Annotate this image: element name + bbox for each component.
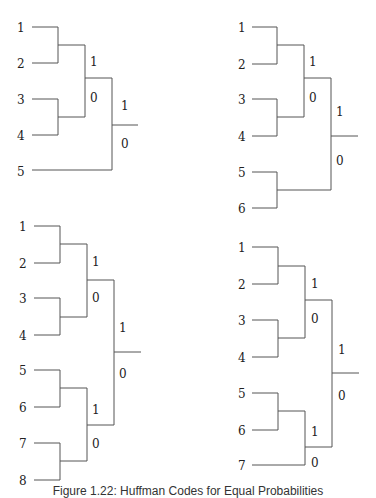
bit-label-lower: 0 xyxy=(92,437,100,451)
bit-label-lower: 0 xyxy=(92,291,100,305)
leaf-label: 2 xyxy=(19,257,27,271)
leaf-label: 1 xyxy=(238,21,246,35)
bit-label-upper: 1 xyxy=(338,343,346,357)
bit-label-lower: 0 xyxy=(311,456,319,470)
huffman-tree-5: 1 2 3 4 5 1 0 1 0 xyxy=(17,21,138,179)
leaf-label: 2 xyxy=(17,57,25,71)
leaf-label: 5 xyxy=(238,166,246,180)
bit-label-upper: 1 xyxy=(92,403,100,417)
bit-label-upper: 1 xyxy=(92,255,100,269)
leaf-label: 5 xyxy=(19,364,27,378)
bit-label-upper: 1 xyxy=(119,321,127,335)
leaf-label: 7 xyxy=(19,437,27,451)
leaf-label: 6 xyxy=(19,401,27,415)
leaf-label: 3 xyxy=(17,93,25,107)
huffman-tree-7: 1 2 3 4 5 6 7 1 0 1 0 1 0 xyxy=(238,241,359,473)
leaf-label: 3 xyxy=(238,93,246,107)
leaf-label: 1 xyxy=(17,21,25,35)
leaf-label: 6 xyxy=(238,202,246,216)
leaf-label: 3 xyxy=(238,314,246,328)
leaf-label: 1 xyxy=(19,220,27,234)
bit-label-lower: 0 xyxy=(338,389,346,403)
bit-label-upper: 1 xyxy=(336,105,344,119)
bit-label-upper: 1 xyxy=(309,55,317,69)
figure-caption: Figure 1.22: Huffman Codes for Equal Pro… xyxy=(0,484,376,498)
bit-label-lower: 0 xyxy=(311,312,319,326)
leaf-label: 5 xyxy=(238,387,246,401)
leaf-label: 1 xyxy=(238,241,246,255)
huffman-tree-6: 1 2 3 4 5 6 1 0 1 0 xyxy=(238,21,358,216)
leaf-label: 7 xyxy=(238,459,246,473)
leaf-label: 5 xyxy=(17,165,25,179)
bit-label-upper: 1 xyxy=(311,277,319,291)
leaf-label: 2 xyxy=(238,58,246,72)
bit-label-upper: 1 xyxy=(90,55,98,69)
leaf-label: 4 xyxy=(17,129,25,143)
huffman-tree-8: 1 2 3 4 5 6 7 8 1 0 1 0 1 0 xyxy=(19,220,141,488)
bit-label-lower: 0 xyxy=(119,367,127,381)
bit-label-upper: 1 xyxy=(121,99,129,113)
leaf-label: 2 xyxy=(238,278,246,292)
bit-label-lower: 0 xyxy=(90,91,98,105)
leaf-label: 4 xyxy=(19,329,27,343)
leaf-label: 3 xyxy=(19,292,27,306)
bit-label-lower: 0 xyxy=(309,91,317,105)
bit-label-lower: 0 xyxy=(336,154,344,168)
bit-label-lower: 0 xyxy=(121,137,129,151)
bit-label-upper: 1 xyxy=(311,425,319,439)
leaf-label: 4 xyxy=(238,130,246,144)
leaf-label: 6 xyxy=(238,424,246,438)
leaf-label: 4 xyxy=(238,351,246,365)
